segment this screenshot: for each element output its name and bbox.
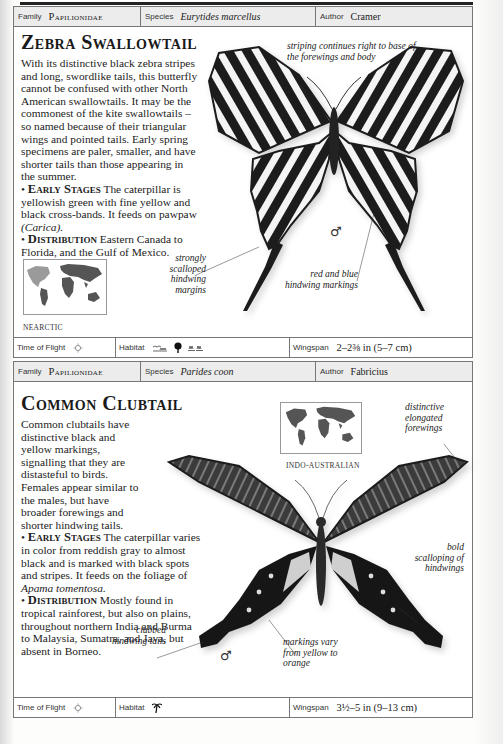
species-label: Species [145, 12, 173, 21]
habitat-label: Habitat [119, 703, 144, 712]
species-description: With its distinctive black zebra stripes… [21, 57, 199, 259]
family-cell: Family Papilionidae [14, 7, 141, 26]
family-value: Papilionidae [49, 11, 103, 22]
region-label: NEARCTIC [23, 323, 63, 332]
entry-footer: Time of Flight Habitat Wingspan 3½–5 in … [14, 697, 472, 717]
habitat-label: Habitat [119, 343, 144, 352]
time-of-flight-cell: Time of Flight [14, 338, 116, 357]
early-stages-italic: (Carica). [21, 221, 63, 233]
author-label: Author [320, 367, 344, 376]
description-text: Common clubtails have distinctive black … [21, 418, 139, 531]
habitat-cell: Habitat [116, 698, 290, 717]
species-entry-common-clubtail: Family Papilionidae Species Parides coon… [13, 361, 473, 718]
wingspan-value: 3½–5 in (9–13 cm) [337, 702, 418, 713]
wingspan-label: Wingspan [293, 703, 329, 712]
bullet: • [21, 233, 25, 245]
world-map-icon [24, 260, 106, 314]
author-cell: Author Fabricius [316, 362, 472, 381]
male-symbol: ♂ [220, 648, 232, 663]
author-cell: Author Cramer [316, 7, 472, 26]
tree-icon [174, 342, 182, 353]
leader-line [444, 444, 464, 464]
time-of-flight-label: Time of Flight [17, 703, 65, 712]
family-value: Papilionidae [49, 366, 103, 377]
description-text: With its distinctive black zebra stripes… [21, 57, 197, 182]
annotation-scalloping: bold scalloping of hindwings [406, 542, 464, 574]
species-value: Eurytides marcellus [180, 11, 260, 22]
wetland-icon [152, 344, 168, 352]
species-cell: Species Parides coon [141, 362, 316, 381]
habitat-cell: Habitat [116, 338, 290, 357]
time-of-flight-label: Time of Flight [17, 343, 65, 352]
annotation-hindwing-markings: red and blue hindwing markings [276, 269, 358, 290]
species-title: Common Clubtail [21, 392, 183, 415]
entry-header: Family Papilionidae Species Eurytides ma… [14, 7, 472, 27]
species-cell: Species Eurytides marcellus [141, 7, 316, 26]
author-label: Author [320, 12, 344, 21]
family-label: Family [18, 367, 42, 376]
top-rule [20, 2, 473, 5]
sun-icon [73, 343, 83, 353]
annotation-forewings: distinctive elongated forewings [405, 402, 465, 434]
species-title: Zebra Swallowtail [21, 31, 197, 54]
annotation-markings-vary: markings vary from yellow to orange [283, 637, 349, 669]
author-value: Fabricius [351, 366, 388, 377]
time-of-flight-cell: Time of Flight [14, 698, 116, 717]
species-value: Parides coon [180, 366, 233, 377]
page-edge-shadow [473, 0, 503, 744]
family-cell: Family Papilionidae [14, 362, 141, 381]
world-map-icon [281, 403, 361, 453]
entry-header: Family Papilionidae Species Parides coon… [14, 362, 472, 382]
page-gutter-shadow [0, 0, 14, 744]
annotation-striping: striping continues right to base of the … [287, 41, 419, 62]
palm-tree-icon [152, 702, 162, 713]
species-label: Species [145, 367, 173, 376]
distribution-heading: Distribution [28, 593, 97, 607]
entry-footer: Time of Flight Habitat Wingspan 2–2⅜ in … [14, 337, 472, 357]
bullet: • [21, 531, 25, 543]
early-stages-italic: Apama tomentosa. [21, 582, 106, 594]
annotation-clubbed-tails: clubbed hindwing tails [102, 625, 166, 646]
bullet: • [21, 183, 25, 195]
species-entry-zebra-swallowtail: Family Papilionidae Species Eurytides ma… [13, 6, 473, 358]
bullet: • [21, 594, 25, 606]
annotation-scalloped-margins: strongly scalloped hindwing margins [160, 253, 206, 295]
wingspan-cell: Wingspan 2–2⅜ in (5–7 cm) [290, 338, 472, 357]
male-symbol: ♂ [330, 224, 342, 239]
family-label: Family [18, 12, 42, 21]
world-map-indo-australian [280, 402, 362, 454]
world-map-nearctic [23, 259, 107, 315]
wingspan-value: 2–2⅜ in (5–7 cm) [337, 342, 412, 353]
sun-icon [73, 703, 83, 713]
wingspan-label: Wingspan [293, 343, 329, 352]
early-stages-heading: Early Stages [28, 182, 101, 196]
early-stages-heading: Early Stages [28, 530, 101, 544]
author-value: Cramer [351, 11, 381, 22]
wingspan-cell: Wingspan 3½–5 in (9–13 cm) [290, 698, 472, 717]
distribution-heading: Distribution [28, 232, 97, 246]
grassland-icon [188, 344, 204, 351]
